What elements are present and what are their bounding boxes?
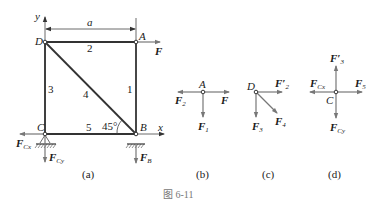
force-F-label: F: [154, 45, 163, 57]
force-FCx-label: FCx: [15, 137, 32, 151]
member-4-label: 4: [83, 88, 89, 100]
node-A: [134, 40, 138, 44]
figure-caption: 图 6-11: [163, 189, 193, 200]
force-FCx-label-d: FCx: [309, 77, 326, 91]
x-axis-label: x: [157, 121, 163, 133]
y-axis-label: y: [34, 10, 40, 22]
panel-b-label: (b): [196, 168, 209, 181]
force-F5-label: F5: [354, 77, 366, 91]
force-F4-label: F4: [274, 115, 286, 129]
node-label-D: D: [34, 35, 43, 47]
force-FCy-label-d: FCy: [329, 121, 346, 135]
panel-b: A F2 F F1 (b): [174, 78, 229, 181]
angle-label: 45°: [102, 120, 117, 132]
truss-figure: y x a 2 3 1 4 5 45° D A C B F: [0, 0, 374, 211]
node-D: [43, 40, 47, 44]
member-1-label: 1: [127, 83, 133, 95]
force-FCy-label: FCy: [48, 151, 65, 165]
panel-a-label: (a): [82, 168, 95, 181]
member-5-label: 5: [86, 121, 92, 133]
panel-a: y x a 2 3 1 4 5 45° D A C B F: [15, 10, 164, 181]
node-C: [43, 132, 47, 136]
member-2-label: 2: [87, 42, 93, 54]
node-label-D-c: D: [246, 80, 255, 92]
panel-c-label: (c): [262, 168, 275, 181]
node-label-A: A: [138, 30, 146, 42]
force-F-label-b: F: [220, 94, 229, 106]
node-B: [134, 132, 138, 136]
node-label-B: B: [140, 121, 147, 133]
panel-c: D F′2 F3 F4 (c): [246, 77, 289, 181]
panel-d-label: (d): [328, 168, 341, 181]
node-label-C: C: [37, 121, 45, 133]
force-F3prime-label: F′3: [329, 52, 344, 66]
member-3-label: 3: [48, 83, 54, 95]
panel-d: C F′3 FCx F5 FCy (d): [309, 52, 366, 181]
force-F2prime-label: F′2: [274, 77, 289, 91]
node-label-A-b: A: [198, 78, 206, 90]
force-F1-label: F1: [197, 120, 209, 134]
node-A-b: [201, 90, 205, 94]
force-F3-label: F3: [251, 120, 263, 134]
angle-arc: [117, 120, 122, 134]
node-label-C-d: C: [326, 94, 334, 106]
force-F4-arrow: [257, 93, 277, 113]
force-F2-label: F2: [174, 94, 186, 108]
force-FB-label: FB: [139, 151, 152, 165]
node-C-d: [334, 90, 338, 94]
dimension-label: a: [87, 16, 93, 28]
